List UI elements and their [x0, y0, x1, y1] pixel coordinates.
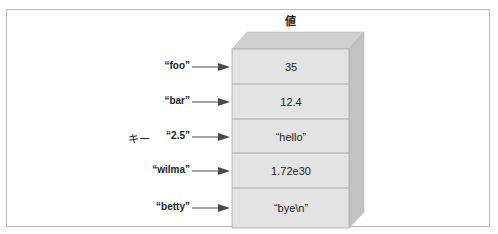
key-label: “bar”	[130, 95, 190, 106]
value-cell: “bye\n”	[233, 190, 349, 225]
value-cell: 12.4	[233, 84, 349, 119]
value-cell: 1.72e30	[233, 153, 349, 188]
key-label: “betty”	[130, 201, 190, 212]
arrow-right-icon	[192, 133, 230, 141]
value-cell: 35	[233, 49, 349, 84]
box-top-face	[232, 32, 364, 49]
arrow-right-icon	[192, 98, 230, 106]
arrow-right-icon	[192, 63, 230, 71]
box-side-face	[349, 32, 364, 228]
arrow-right-icon	[192, 204, 230, 212]
keys-label: キー	[128, 130, 150, 146]
key-label: “foo”	[130, 60, 190, 71]
arrow-right-icon	[192, 167, 230, 175]
key-label: “wilma”	[130, 164, 190, 175]
value-cell: “hello”	[233, 119, 349, 154]
